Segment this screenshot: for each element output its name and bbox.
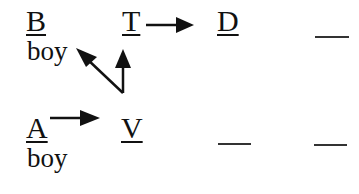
arrow-to-b-icon: [76, 48, 123, 93]
arrow-t-to-d-icon: [146, 17, 194, 33]
arrow-a-to-v-icon: [50, 110, 100, 126]
arrows-layer: [0, 0, 359, 194]
